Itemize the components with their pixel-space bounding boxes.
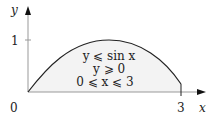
condition-2: y ⩾ 0 [92, 62, 125, 76]
origin-label: 0 [10, 101, 18, 115]
y-axis-label: y [10, 3, 18, 17]
region-diagram: y 1 0 3 x y ⩽ sin x y ⩾ 0 0 ⩽ x ⩽ 3 [0, 0, 217, 116]
x-tick-label: 3 [177, 101, 185, 115]
condition-1: y ⩽ sin x [82, 49, 136, 63]
y-tick-label: 1 [11, 34, 19, 48]
y-axis-arrow-icon [25, 6, 31, 15]
x-axis-label: x [199, 101, 206, 115]
condition-3: 0 ⩽ x ⩽ 3 [76, 75, 133, 89]
x-axis-arrow-icon [197, 89, 206, 95]
